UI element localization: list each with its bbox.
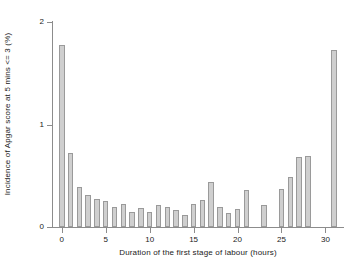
x-axis-tick-label: 30 xyxy=(310,235,340,244)
y-axis-tick-label: 1 xyxy=(4,121,44,129)
bar xyxy=(138,208,143,227)
bar-series xyxy=(53,22,343,227)
bar xyxy=(226,213,231,227)
x-axis-tick-label: 10 xyxy=(135,235,165,244)
x-axis-tick-label: 20 xyxy=(223,235,253,244)
bar xyxy=(279,189,284,227)
apgar-duration-histogram: Incidence of Apgar score at 5 mins <= 3 … xyxy=(0,0,360,268)
bar xyxy=(288,177,293,227)
bar xyxy=(77,187,82,227)
x-axis-tick xyxy=(281,228,282,233)
bar xyxy=(59,45,64,227)
bar xyxy=(331,50,336,227)
x-axis-tick-label: 5 xyxy=(91,235,121,244)
bar xyxy=(156,205,161,227)
x-axis-tick xyxy=(150,228,151,233)
x-axis-tick-label: 15 xyxy=(179,235,209,244)
y-axis-tick-label: 2 xyxy=(4,18,44,26)
x-axis-tick-label: 0 xyxy=(47,235,77,244)
bar xyxy=(200,200,205,227)
x-axis-line xyxy=(52,227,344,228)
bar xyxy=(235,209,240,227)
bar xyxy=(244,190,249,227)
bar xyxy=(94,199,99,227)
bar xyxy=(129,212,134,227)
bar xyxy=(261,205,266,227)
x-axis-title: Duration of the first stage of labour (h… xyxy=(53,248,343,257)
bar xyxy=(296,157,301,227)
bar xyxy=(217,207,222,228)
y-axis-tick-label: 0 xyxy=(4,223,44,231)
bar xyxy=(103,201,108,227)
bar xyxy=(68,153,73,227)
x-axis-tick-label: 25 xyxy=(266,235,296,244)
bar xyxy=(85,195,90,227)
bar xyxy=(182,215,187,227)
bar xyxy=(305,156,310,227)
x-axis-tick xyxy=(106,228,107,233)
x-axis-tick xyxy=(238,228,239,233)
bar xyxy=(191,204,196,227)
bar xyxy=(173,210,178,227)
y-axis-tick xyxy=(47,227,52,228)
x-axis-tick xyxy=(194,228,195,233)
bar xyxy=(208,182,213,227)
bar xyxy=(112,207,117,228)
x-axis-tick xyxy=(62,228,63,233)
x-axis-tick xyxy=(325,228,326,233)
bar xyxy=(121,204,126,227)
bar xyxy=(147,212,152,227)
y-axis-tick xyxy=(47,22,52,23)
bar xyxy=(165,207,170,228)
y-axis-tick xyxy=(47,125,52,126)
